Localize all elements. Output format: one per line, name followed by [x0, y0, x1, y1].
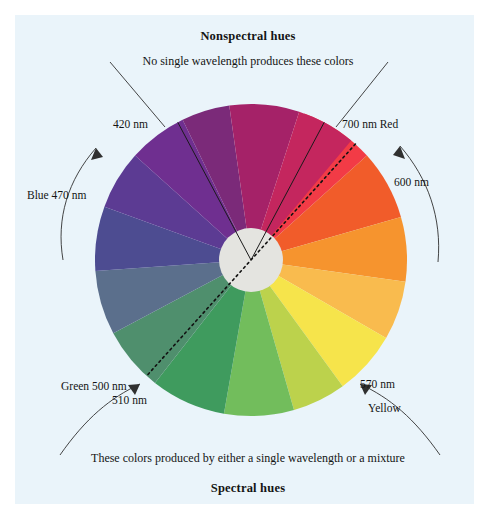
arrow-curve-spectral-right [360, 384, 440, 455]
arrow-curve-blue-470 [61, 148, 96, 260]
color-wheel-figure: Nonspectral hues No single wavelength pr… [0, 0, 496, 521]
bottom-caption: These colors produced by either a single… [0, 452, 496, 465]
arrow-head-600 [393, 146, 405, 159]
top-title: Nonspectral hues [0, 30, 496, 44]
annotation-nm-470-blue: Blue 470 nm [27, 189, 86, 202]
bottom-title: Spectral hues [0, 482, 496, 496]
annotation-nm-yellow: Yellow [368, 402, 401, 415]
annotation-nm-510: 510 nm [112, 394, 147, 407]
annotation-nm-500-green: Green 500 nm [61, 380, 127, 393]
arrow-head-blue-470 [91, 148, 103, 160]
annotation-nm-700-red: 700 nm Red [342, 118, 398, 131]
annotation-nm-600: 600 nm [394, 176, 429, 189]
annotation-nm-570: 570 nm [360, 378, 395, 391]
top-caption: No single wavelength produces these colo… [0, 55, 496, 68]
annotation-nm-420: 420 nm [113, 118, 148, 131]
color-wheel-graphic [0, 0, 496, 521]
